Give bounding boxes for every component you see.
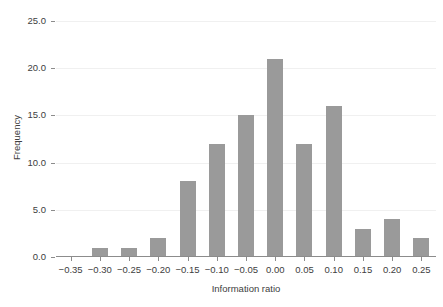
y-tick-label: 20.0 <box>8 63 46 73</box>
x-tick-mark <box>71 257 72 261</box>
y-tick-mark <box>51 115 55 116</box>
y-axis-title: Frequency <box>11 78 22 198</box>
bar <box>180 181 196 257</box>
x-tick-mark <box>392 257 393 261</box>
y-tick-mark <box>51 21 55 22</box>
gridline <box>56 68 436 69</box>
x-axis-title: Information ratio <box>56 283 436 294</box>
x-tick-mark <box>129 257 130 261</box>
y-tick-mark <box>51 257 55 258</box>
y-tick-label: 10.0 <box>8 158 46 168</box>
gridline <box>56 21 436 22</box>
y-tick-mark <box>51 210 55 211</box>
y-tick-label: 0.0 <box>8 252 46 262</box>
x-tick-mark <box>158 257 159 261</box>
x-tick-mark <box>100 257 101 261</box>
x-tick-mark <box>421 257 422 261</box>
x-tick-mark <box>217 257 218 261</box>
y-tick-label: 25.0 <box>8 16 46 26</box>
bar <box>267 59 283 257</box>
plot-area <box>56 21 436 257</box>
x-tick-mark <box>304 257 305 261</box>
histogram-figure: Frequency 0.05.010.015.020.025.0 −0.35−0… <box>0 0 443 307</box>
bar <box>238 115 254 257</box>
x-tick-mark <box>334 257 335 261</box>
bar <box>296 144 312 257</box>
y-tick-label: 5.0 <box>8 205 46 215</box>
x-tick-label: 0.25 <box>399 264 443 275</box>
x-tick-mark <box>188 257 189 261</box>
chart-title-cutoff <box>0 0 443 5</box>
y-tick-mark <box>51 68 55 69</box>
x-tick-mark <box>275 257 276 261</box>
bar <box>384 219 400 257</box>
bar <box>209 144 225 257</box>
y-tick-mark <box>51 163 55 164</box>
bar <box>413 238 429 257</box>
bar <box>326 106 342 257</box>
bar <box>150 238 166 257</box>
y-tick-label: 15.0 <box>8 110 46 120</box>
x-tick-mark <box>246 257 247 261</box>
x-tick-mark <box>363 257 364 261</box>
bar <box>355 229 371 257</box>
